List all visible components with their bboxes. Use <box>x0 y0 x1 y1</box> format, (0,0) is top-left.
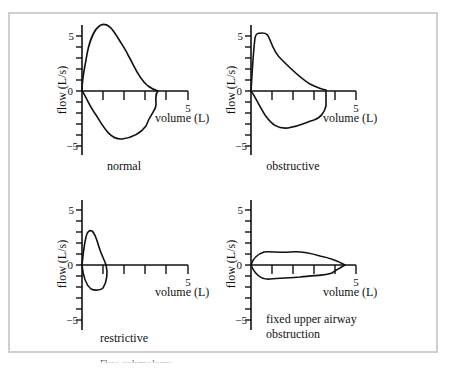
loop-restrictive <box>82 231 107 290</box>
x-axis-label: volume (L) <box>323 111 377 125</box>
flow-volume-diagram: 5 0 −5 5 volume (L) flow (L/s) normal <box>0 0 450 369</box>
y-axis-label: flow (L/s) <box>55 240 69 288</box>
caption-restrictive: restrictive <box>100 331 148 345</box>
loop-obstructive <box>251 33 326 128</box>
y-axis-label: flow (L/s) <box>224 66 238 114</box>
y-tick-minus-5: −5 <box>66 314 78 326</box>
y-tick-5: 5 <box>238 30 244 42</box>
panel-obstructive: 5 0 −5 5 volume (L) flow (L/s) obstructi… <box>224 25 377 173</box>
x-axis-label: volume (L) <box>323 285 377 299</box>
y-tick-minus-5: −5 <box>235 314 247 326</box>
caption-fixed-line2: obstruction <box>266 327 320 341</box>
x-axis-label: volume (L) <box>155 285 209 299</box>
caption-normal: normal <box>107 159 142 173</box>
y-tick-5: 5 <box>69 30 75 42</box>
panel-normal: 5 0 −5 5 volume (L) flow (L/s) normal <box>55 24 209 173</box>
x-axis-label: volume (L) <box>155 111 209 125</box>
y-tick-minus-5: −5 <box>66 140 78 152</box>
y-axis-label: flow (L/s) <box>224 240 238 288</box>
panel-fixed-upper-airway-obstruction: 5 0 −5 5 volume (L) flow (L/s) fixed upp… <box>224 200 377 341</box>
y-tick-5: 5 <box>69 204 75 216</box>
caption-fixed-line1: fixed upper airway <box>266 312 357 326</box>
panel-restrictive: 5 0 −5 5 volume (L) flow (L/s) restricti… <box>55 200 209 345</box>
y-axis-label: flow (L/s) <box>55 66 69 114</box>
y-tick-5: 5 <box>238 204 244 216</box>
caption-obstructive: obstructive <box>266 159 319 173</box>
loop-normal <box>82 24 158 139</box>
y-tick-minus-5: −5 <box>235 140 247 152</box>
